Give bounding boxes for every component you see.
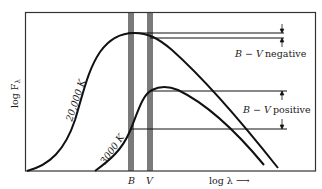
negative-annotation-sign: negative — [265, 48, 307, 59]
hot-star-label: 20,000 K — [63, 77, 87, 123]
plot-frame — [26, 13, 316, 172]
blackbody-color-index-diagram: 20,000 K 3000 K B − V negative B − V pos… — [0, 0, 322, 189]
b-filter-band — [128, 12, 134, 171]
positive-annotation-bv: B − V — [242, 104, 272, 115]
cool-star-label: 3000 K — [98, 131, 127, 166]
x-axis-label: log λ ⟶ — [209, 175, 250, 186]
negative-annotation-bv: B − V — [234, 48, 264, 59]
v-filter-label: V — [146, 175, 154, 186]
y-axis-label: log Fλ — [9, 79, 22, 108]
b-filter-label: B — [127, 175, 135, 186]
positive-annotation-sign: positive — [273, 104, 311, 115]
negative-arrows-icon — [280, 24, 284, 47]
svg-text:log Fλ: log Fλ — [9, 79, 22, 108]
y-axis-subscript: λ — [14, 79, 22, 84]
